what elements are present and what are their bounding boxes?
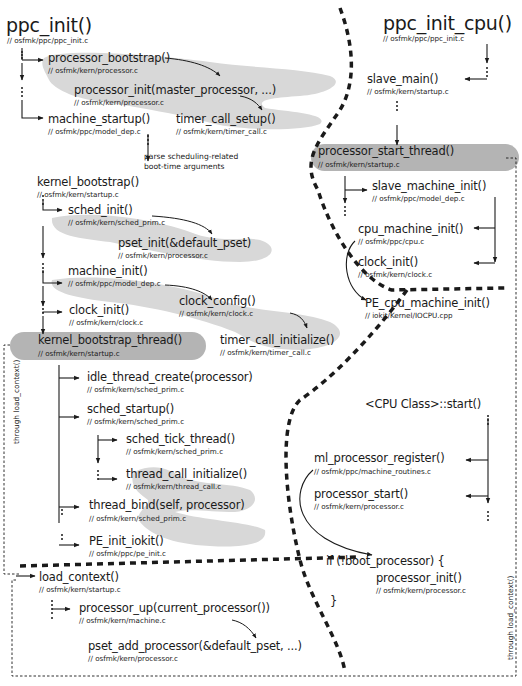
node-path: // osfmk/ppc/model_dep.c	[48, 127, 141, 136]
ppc-init-path: // osfmk/ppc/ppc_init.c	[7, 36, 88, 45]
node-path: // osfmk/ppc/pe_init.c	[89, 549, 166, 558]
node-kernel-bootstrap: kernel_bootstrap()	[37, 176, 139, 189]
node-clock-init-left: clock_init()	[69, 304, 129, 317]
node-cpu-machine-init: cpu_machine_init()	[358, 223, 463, 236]
ppc-init-title: ppc_init()	[6, 14, 92, 36]
node-pe-cpu-machine-init: PE_cpu_machine_init()	[365, 297, 490, 310]
node-machine-startup: machine_startup()	[48, 113, 150, 126]
node-path: // osfmk/kern/startup.c	[37, 190, 119, 199]
node-sched-tick-thread: sched_tick_thread()	[126, 433, 235, 446]
if-boot-processor: if (!boot_processor) {	[326, 555, 445, 568]
node-thread-call-initialize: thread_call_initialize()	[126, 468, 247, 481]
node-path: // osfmk/kern/startup.c	[39, 585, 121, 594]
node-path: // osfmk/kern/processor.c	[118, 251, 208, 260]
node-timer-call-setup: timer_call_setup()	[176, 113, 276, 126]
node-slave-machine-init: slave_machine_init()	[372, 180, 486, 193]
node-path: // osfmk/kern/clock.c	[358, 270, 432, 279]
node-path: // osfmk/kern/processor.c	[88, 654, 178, 663]
note-line-2: boot-time arguments	[144, 162, 225, 172]
node-path: // osfmk/kern/startup.c	[38, 349, 120, 358]
node-path: // osfmk/kern/clock.c	[179, 309, 253, 318]
node-path: // osfmk/kern/sched_prim.c	[87, 385, 184, 394]
node-pset-add-processor: pset_add_processor(&default_pset, ...)	[88, 640, 302, 653]
node-processor-up: processor_up(current_processor())	[79, 602, 270, 615]
node-slave-main: slave_main()	[367, 73, 438, 86]
node-idle-thread-create: idle_thread_create(processor)	[87, 371, 253, 384]
node-path: // osfmk/kern/thread_call.c	[126, 482, 221, 491]
node-path: // osfmk/kern/sched_prim.c	[87, 417, 184, 426]
node-path: // osfmk/kern/processor.c	[48, 66, 138, 75]
right-through-load-context-label: through load_context()	[506, 575, 515, 660]
node-path: // osfmk/kern/processor.c	[74, 98, 164, 107]
node-processor-init-master: processor_init(master_processor, ...)	[74, 84, 276, 97]
node-path: // osfmk/kern/clock.c	[69, 318, 143, 327]
if-close-brace: }	[330, 595, 337, 608]
node-path: // osfmk/kern/processor.c	[376, 586, 466, 595]
node-path: // osfmk/ppc/model_dep.c	[372, 194, 465, 203]
node-path: // osfmk/kern/machine.c	[79, 616, 166, 625]
boot-call-graph-diagram: ppc_init() // osfmk/ppc/ppc_init.c ppc_i…	[0, 0, 522, 686]
node-pe-init-iokit: PE_init_iokit()	[89, 535, 163, 548]
node-path: // osfmk/kern/sched_prim.c	[126, 447, 223, 456]
node-path: // osfmk/kern/startup.c	[318, 160, 400, 169]
node-sched-startup: sched_startup()	[87, 403, 174, 416]
node-path: // osfmk/kern/sched_prim.c	[68, 218, 165, 227]
node-path: // osfmk/kern/startup.c	[367, 87, 449, 96]
node-path: // osfmk/kern/sched_prim.c	[89, 514, 186, 523]
cpu-class-start: <CPU Class>::start()	[365, 398, 481, 411]
node-path: // iokit/Kernel/IOCPU.cpp	[365, 311, 453, 320]
node-path: // osfmk/kern/timer_call.c	[176, 127, 267, 136]
node-machine-init: machine_init()	[68, 265, 148, 278]
node-pset-init: pset_init(&default_pset)	[118, 237, 251, 250]
node-processor-start-thread: processor_start_thread()	[318, 145, 454, 158]
left-through-load-context-label: through load_context()	[12, 359, 21, 444]
note-line-1: parse scheduling-related	[144, 152, 238, 162]
node-path: // osfmk/kern/processor.c	[314, 502, 404, 511]
node-processor-bootstrap: processor_bootstrap()	[48, 52, 170, 65]
node-path: // osfmk/ppc/machine_routines.c	[314, 467, 431, 476]
node-timer-call-initialize: timer_call_initialize()	[220, 334, 334, 347]
ppc-init-cpu-title: ppc_init_cpu()	[383, 12, 512, 34]
node-load-context: load_context()	[39, 571, 119, 584]
node-kernel-bootstrap-thread: kernel_bootstrap_thread()	[38, 334, 182, 347]
node-path: // osfmk/ppc/cpu.c	[358, 237, 424, 246]
node-processor-start: processor_start()	[314, 488, 408, 501]
node-processor-init-slave: processor_init()	[376, 572, 462, 585]
node-clock-config: clock_config()	[179, 295, 256, 308]
node-path: // osfmk/ppc/model_dep.c	[68, 279, 161, 288]
node-sched-init: sched_init()	[68, 204, 133, 217]
node-ml-processor-register: ml_processor_register()	[314, 452, 445, 465]
node-thread-bind: thread_bind(self, processor)	[89, 499, 244, 512]
node-path: // osfmk/kern/timer_call.c	[220, 348, 311, 357]
node-clock-init-right: clock_init()	[358, 256, 418, 269]
ppc-init-cpu-path: // osfmk/ppc/ppc_init.c	[383, 34, 464, 43]
